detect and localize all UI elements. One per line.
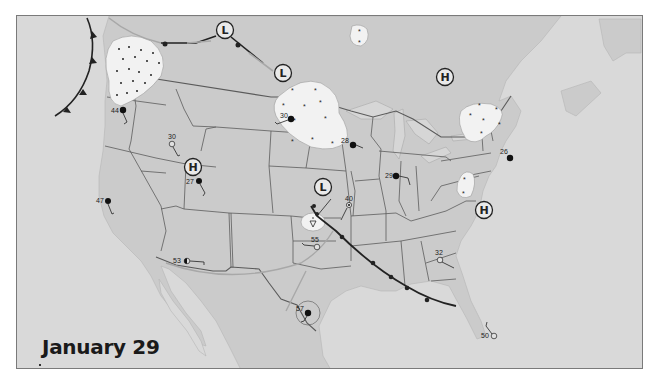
svg-text:47: 47 [96, 197, 104, 204]
svg-text:*: * [311, 136, 314, 143]
svg-text:*: * [282, 102, 285, 109]
svg-text:*: * [480, 130, 483, 137]
svg-text:*: * [358, 28, 361, 35]
svg-text:*: * [303, 103, 306, 110]
svg-text:H: H [440, 71, 449, 84]
svg-text:*: * [331, 140, 334, 147]
svg-text:57: 57 [296, 305, 304, 312]
svg-text:27: 27 [186, 178, 194, 185]
svg-text:*: * [319, 99, 322, 106]
svg-text:*: * [358, 39, 361, 46]
svg-text:30: 30 [168, 133, 176, 140]
svg-text:H: H [479, 204, 488, 217]
svg-text:*: * [469, 112, 472, 119]
svg-text:50: 50 [481, 332, 489, 339]
low-pressure-center: L [217, 22, 234, 39]
high-pressure-center: H [476, 202, 493, 219]
bullet-dot [39, 364, 41, 366]
svg-text:30: 30 [280, 112, 288, 119]
low-pressure-center: L [275, 65, 292, 82]
svg-text:L: L [279, 67, 286, 80]
map-date-label: January 29 [42, 335, 160, 359]
svg-text:L: L [319, 181, 326, 194]
svg-text:L: L [221, 24, 228, 37]
svg-text:55: 55 [311, 236, 319, 243]
svg-text:*: * [291, 87, 294, 94]
kansas-showers [301, 213, 325, 231]
svg-text:28: 28 [341, 137, 349, 144]
svg-text:29: 29 [385, 172, 393, 179]
weather-map: ** *** ** *** *** *** ** ** [16, 15, 643, 369]
svg-text:*: * [495, 106, 498, 113]
svg-text:44: 44 [111, 107, 119, 114]
svg-text:H: H [188, 161, 197, 174]
low-pressure-center: L [315, 179, 332, 196]
svg-text:*: * [291, 138, 294, 145]
svg-text:26: 26 [500, 148, 508, 155]
svg-text:*: * [482, 117, 485, 124]
svg-text:40: 40 [345, 195, 353, 202]
svg-text:*: * [463, 176, 466, 183]
high-pressure-center: H [185, 159, 202, 176]
svg-text:*: * [462, 190, 465, 197]
svg-text:*: * [478, 102, 481, 109]
svg-text:*: * [324, 115, 327, 122]
svg-text:32: 32 [435, 249, 443, 256]
svg-text:*: * [498, 121, 501, 128]
high-pressure-center: H [437, 69, 454, 86]
svg-text:53: 53 [173, 257, 181, 264]
svg-text:*: * [314, 87, 317, 94]
